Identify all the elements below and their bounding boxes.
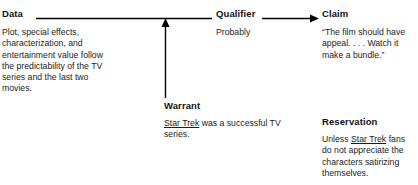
arrowhead-right-icon [310, 15, 319, 23]
node-reservation-heading: Reservation [322, 116, 417, 127]
node-claim-heading: Claim [322, 8, 417, 19]
node-claim: Claim “The film should have appeal. . . … [322, 8, 417, 61]
node-reservation-body-title: Star Trek [351, 134, 386, 144]
node-claim-body: “The film should have appeal. . . . Watc… [322, 27, 415, 61]
node-data-heading: Data [2, 8, 120, 19]
node-qualifier-heading: Qualifier [216, 8, 278, 19]
node-warrant: Warrant Star Trek was a successful TV se… [164, 100, 284, 141]
node-qualifier-body: Probably [216, 27, 278, 38]
arrowhead-up-icon [162, 18, 170, 27]
node-warrant-body: Star Trek was a successful TV series. [164, 118, 282, 141]
node-warrant-body-title: Star Trek [164, 118, 199, 128]
node-data-body: Plot, special effects, characterization,… [2, 27, 114, 95]
node-warrant-heading: Warrant [164, 100, 284, 111]
node-reservation-body-prefix: Unless [322, 134, 351, 144]
node-data: Data Plot, special effects, characteriza… [2, 8, 120, 95]
node-reservation-body: Unless Star Trek fans do not appreciate … [322, 134, 415, 179]
diagram-canvas: Data Plot, special effects, characteriza… [0, 0, 418, 185]
node-reservation: Reservation Unless Star Trek fans do not… [322, 116, 417, 179]
node-qualifier: Qualifier Probably [216, 8, 278, 38]
